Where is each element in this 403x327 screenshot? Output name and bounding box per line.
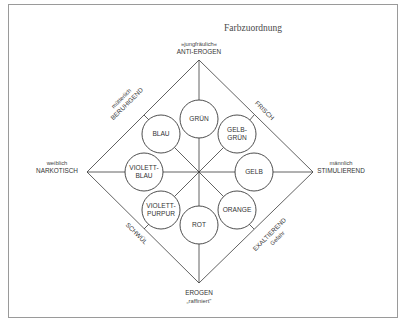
svg-text:BLAU: BLAU	[152, 130, 169, 137]
svg-text:VIOLETT-: VIOLETT-	[129, 164, 158, 171]
pole-top-sub: »jungfräulich«	[181, 41, 217, 47]
color-circle-violettpurpur: VIOLETT- PURPUR	[142, 191, 180, 229]
color-circle-gelbgruen: GELB- GRÜN	[218, 115, 256, 153]
pole-left-sub: weiblich	[46, 160, 68, 166]
svg-text:PURPUR: PURPUR	[147, 210, 175, 217]
color-circle-gruen: GRÜN	[180, 100, 218, 138]
svg-text:SCHWÜL: SCHWÜL	[124, 221, 149, 246]
svg-text:ORANGE: ORANGE	[223, 206, 252, 213]
color-circle-rot: ROT	[180, 206, 218, 244]
edge-bottom-left: SCHWÜL	[124, 221, 149, 246]
pole-right-sub: männlich	[329, 160, 352, 166]
svg-text:VIOLETT-: VIOLETT-	[146, 202, 175, 209]
pole-left-label: NARKOTISCH	[36, 167, 78, 174]
pole-bottom-label: EROGEN	[185, 289, 213, 296]
color-assignment-diagram: Farbzuordnung GRÜN GELB- GRÜN GELB ORANG…	[0, 0, 403, 327]
pole-right-label: STIMULIEREND	[317, 167, 365, 174]
pole-bottom-sub: „raffiniert"	[187, 298, 212, 304]
svg-text:BLAU: BLAU	[135, 172, 152, 179]
svg-text:GRÜN: GRÜN	[189, 115, 209, 122]
diagram-title: Farbzuordnung	[224, 23, 282, 33]
svg-text:ROT: ROT	[192, 221, 206, 228]
svg-text:GELB-: GELB-	[227, 126, 247, 133]
color-circle-gelb: GELB	[235, 153, 273, 191]
pole-top-label: ANTI-EROGEN	[177, 48, 222, 55]
color-circle-orange: ORANGE	[218, 191, 256, 229]
svg-text:FRISCH: FRISCH	[254, 99, 276, 121]
color-circle-blau: BLAU	[142, 115, 180, 153]
svg-text:GELB: GELB	[245, 168, 263, 175]
color-circle-violettblau: VIOLETT- BLAU	[125, 153, 163, 191]
edge-top-left: mütterlich BERUHIGEND	[104, 81, 144, 121]
edge-top-right: FRISCH	[254, 99, 276, 121]
svg-text:GRÜN: GRÜN	[227, 134, 247, 141]
edge-bottom-right: EXALTIEREND Gefahr	[251, 216, 293, 258]
